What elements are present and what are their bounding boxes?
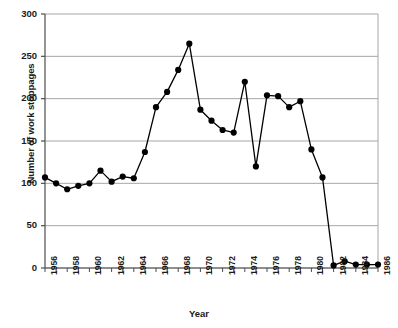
y-axis-tick-label: 0	[3, 262, 37, 273]
data-point-marker	[220, 127, 226, 133]
data-point-marker	[197, 107, 203, 113]
x-axis-tick-label: 1966	[160, 256, 170, 275]
data-point-marker	[353, 262, 359, 268]
data-point-marker	[42, 174, 48, 180]
work-stoppages-line-chart: Number of work stoppages Year 0501001502…	[0, 0, 398, 328]
x-axis-tick-label: 1960	[93, 256, 103, 275]
data-point-marker	[242, 79, 248, 85]
y-axis-tick-label: 250	[3, 50, 37, 61]
x-axis-tick-label: 1958	[71, 256, 81, 275]
data-point-marker	[297, 98, 303, 104]
x-axis-tick-label: 1976	[271, 256, 281, 275]
x-axis-tick-label: 1978	[293, 256, 303, 275]
data-point-marker	[319, 174, 325, 180]
x-axis-tick-label: 1982	[338, 256, 348, 275]
x-axis-tick-label: 1974	[249, 256, 259, 275]
data-point-marker	[131, 175, 137, 181]
data-point-marker	[208, 118, 214, 124]
data-point-marker	[142, 149, 148, 155]
x-axis-tick-label: 1968	[182, 256, 192, 275]
data-point-marker	[64, 186, 70, 192]
data-series-line	[45, 44, 378, 266]
x-axis-tick-label: 1972	[227, 256, 237, 275]
x-axis-tick-label: 1980	[315, 256, 325, 275]
data-point-marker	[75, 183, 81, 189]
x-axis-tick-label: 1962	[116, 256, 126, 275]
data-point-marker	[375, 262, 381, 268]
y-axis-tick-label: 150	[3, 135, 37, 146]
x-axis-tick-label: 1984	[360, 256, 370, 275]
x-axis-tick-label: 1986	[382, 256, 392, 275]
x-axis-tick-label: 1970	[204, 256, 214, 275]
data-point-marker	[175, 67, 181, 73]
y-axis-tick-label: 50	[3, 219, 37, 230]
data-point-marker	[264, 92, 270, 98]
data-point-marker	[331, 262, 337, 268]
data-point-marker	[186, 41, 192, 47]
plot-canvas	[0, 0, 398, 328]
data-point-marker	[109, 179, 115, 185]
data-point-marker	[53, 180, 59, 186]
y-axis-tick-label: 100	[3, 177, 37, 188]
data-point-marker	[275, 93, 281, 99]
data-point-marker	[308, 146, 314, 152]
data-point-marker	[86, 180, 92, 186]
data-point-marker	[164, 89, 170, 95]
data-point-marker	[120, 173, 126, 179]
data-point-marker	[97, 168, 103, 174]
x-axis-tick-label: 1964	[138, 256, 148, 275]
data-point-marker	[153, 104, 159, 110]
x-axis-tick-label: 1956	[49, 256, 59, 275]
data-point-marker	[253, 163, 259, 169]
data-point-marker	[231, 129, 237, 135]
y-axis-tick-label: 200	[3, 92, 37, 103]
data-point-marker	[286, 104, 292, 110]
y-axis-tick-label: 300	[3, 8, 37, 19]
